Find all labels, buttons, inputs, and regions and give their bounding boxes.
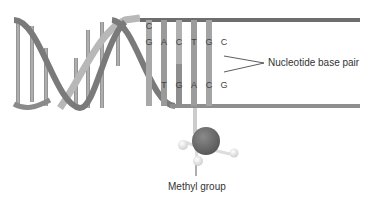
- base-letter: A: [159, 37, 169, 47]
- base-letter: A: [189, 80, 199, 90]
- base-letter: G: [204, 37, 214, 47]
- bottom-backbone: [170, 104, 360, 108]
- base-pair-label: Nucleotide base pair: [268, 57, 359, 68]
- base-letter: T: [189, 37, 199, 47]
- base-letter: G: [144, 37, 154, 47]
- base-letter: C: [219, 37, 229, 47]
- methyl-group-molecule: [178, 108, 239, 166]
- base-letter: C: [174, 37, 184, 47]
- base-letter: C: [144, 21, 154, 31]
- base-letter: G: [174, 80, 184, 90]
- base-letter: T: [159, 80, 169, 90]
- base-letter: G: [219, 80, 229, 90]
- base-letter: C: [204, 80, 214, 90]
- dna-helix-graphic: [0, 0, 378, 207]
- top-backbone: [140, 18, 360, 22]
- dna-methylation-diagram: C G A C T G C T G A C G Nucleotide base …: [0, 0, 378, 207]
- methyl-group-label: Methyl group: [168, 181, 226, 192]
